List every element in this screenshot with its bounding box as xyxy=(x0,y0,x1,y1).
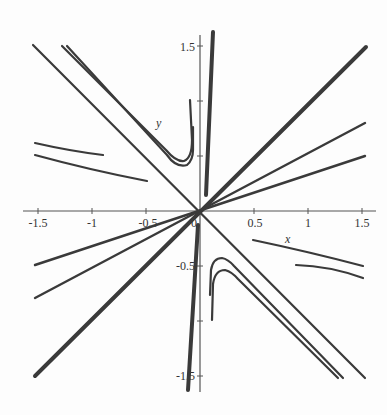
x-tick--1.5: -1.5 xyxy=(29,216,48,230)
plot-area: -1.5 -1 -0.5 0.5 1 1.5 0 1.5 -0.5 -1.5 x… xyxy=(0,0,387,415)
right-curve-lower xyxy=(296,265,363,278)
x-tick--1: -1 xyxy=(87,216,97,230)
y-tick-1.5: 1.5 xyxy=(180,40,195,54)
x-axis-label: x xyxy=(284,232,291,246)
x-tick-1: 1 xyxy=(305,216,311,230)
y-tick--1.5: -1.5 xyxy=(176,369,195,383)
x-tick-1.5: 1.5 xyxy=(355,216,370,230)
chart-svg: -1.5 -1 -0.5 0.5 1 1.5 0 1.5 -0.5 -1.5 x… xyxy=(0,0,387,415)
y-tick--0.5: -0.5 xyxy=(176,259,195,273)
hyperbola-ul-inner xyxy=(67,46,193,166)
x-tick-0.5: 0.5 xyxy=(248,216,263,230)
near-vertical-lower xyxy=(188,225,198,390)
right-curve-upper xyxy=(253,240,363,266)
y-axis-label: y xyxy=(155,116,162,130)
near-vertical-upper xyxy=(206,32,213,195)
left-curve-lower xyxy=(35,155,147,181)
left-curve-upper xyxy=(35,143,103,155)
